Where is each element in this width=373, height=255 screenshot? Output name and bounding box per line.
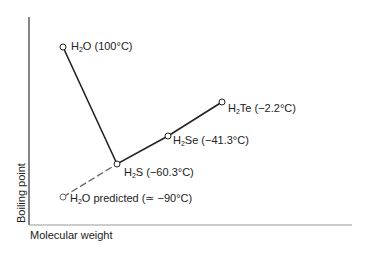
x-axis-title: Molecular weight [30,229,113,241]
boiling-point-diagram: H2O (100°C) H2S (−60.3°C) H2Se (−41.3°C)… [0,0,373,255]
chart-plot [0,0,373,255]
point-h2te [219,99,225,105]
label-h2o-predicted: H2O predicted (≃ −90°C) [70,192,192,205]
label-h2se: H2Se (−41.3°C) [173,134,249,147]
label-h2s: H2S (−60.3°C) [124,166,194,179]
label-h2te: H2Te (−2.2°C) [228,102,296,115]
point-h2se [165,133,171,139]
point-h2o [60,44,66,50]
label-h2o: H2O (100°C) [71,40,133,53]
point-h2s [114,161,120,167]
y-axis-title: Boiling point [15,163,27,223]
point-h2o-predicted [60,194,66,200]
